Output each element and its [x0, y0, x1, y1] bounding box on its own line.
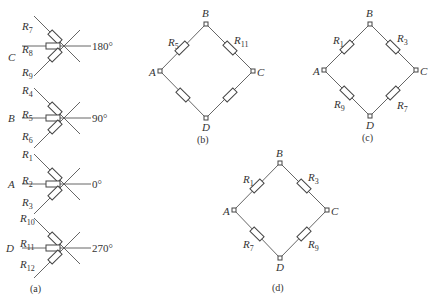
label-r4: R4 [21, 84, 33, 99]
label-r5: R5 [167, 36, 179, 51]
rosette-c [22, 16, 91, 76]
panel-d: B A C D R1 R3 R7 R9 (d) [222, 147, 339, 294]
label-r2: R2 [21, 174, 33, 189]
node-d: D [201, 121, 210, 133]
node-c: C [420, 65, 428, 77]
node-d: D [275, 261, 284, 273]
angle-270: 270° [92, 242, 113, 254]
label-r11: R11 [19, 237, 34, 252]
node-a: A [222, 205, 230, 217]
node-b: B [366, 7, 373, 19]
label-r1: R1 [242, 173, 254, 188]
node-c: C [331, 205, 339, 217]
node-b: B [276, 147, 283, 159]
label-r9: R9 [21, 66, 33, 81]
label-r11: R11 [233, 34, 248, 49]
panel-a: R7 R8 C R9 180° R4 R5 B R6 90° R1 R2 A R… [5, 16, 113, 295]
label-r6: R6 [21, 130, 33, 145]
label-r3: R3 [307, 171, 319, 186]
bridge-diagram-figure: R7 R8 C R9 180° R4 R5 B R6 90° R1 R2 A R… [0, 0, 439, 304]
label-r7: R7 [21, 20, 33, 35]
label-r9: R9 [333, 98, 345, 113]
label-r1: R1 [21, 148, 33, 163]
panel-c: B A C D R1 R3 R9 R7 (c) [312, 7, 428, 144]
label-r12: R12 [19, 258, 35, 273]
caption-b: (b) [197, 134, 209, 146]
angle-90: 90° [92, 112, 107, 124]
label-r9: R9 [307, 238, 319, 253]
node-c: C [257, 66, 265, 78]
panel-b: B A C D R5 R11 (b) [148, 7, 265, 146]
caption-c: (c) [362, 132, 373, 144]
caption-a: (a) [30, 283, 41, 295]
label-r7: R7 [242, 238, 254, 253]
label-node-c: C [8, 51, 16, 63]
angle-0: 0° [92, 178, 102, 190]
caption-d: (d) [272, 282, 284, 294]
node-b: B [202, 7, 209, 19]
label-r3: R3 [21, 196, 33, 211]
label-r7: R7 [396, 99, 408, 114]
node-d: D [365, 119, 374, 131]
node-a: A [148, 66, 156, 78]
node-a: A [312, 65, 320, 77]
angle-180: 180° [92, 40, 113, 52]
label-r10: R10 [19, 212, 35, 227]
label-node-b: B [8, 112, 15, 124]
label-r3: R3 [396, 32, 408, 47]
label-node-a: A [7, 178, 15, 190]
label-r5: R5 [21, 108, 33, 123]
label-node-d: D [5, 242, 14, 254]
label-r1: R1 [332, 34, 344, 49]
label-r8: R8 [21, 43, 33, 58]
